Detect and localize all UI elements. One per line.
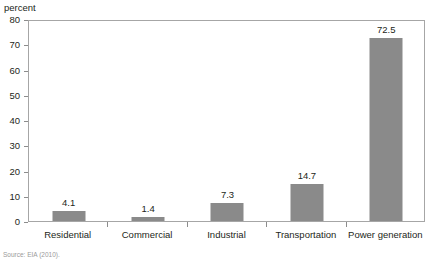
bar — [211, 203, 244, 221]
bar — [132, 217, 165, 221]
y-axis-tick-label: 80 — [9, 14, 20, 25]
y-axis-tick-mark — [24, 222, 28, 223]
x-axis-category-label: Power generation — [348, 229, 422, 241]
x-axis-category-label: Commercial — [122, 229, 173, 241]
bar — [52, 211, 85, 221]
x-axis-separator-tick — [346, 222, 347, 227]
y-axis-tick-mark — [24, 45, 28, 46]
bars-layer: 4.11.47.314.772.5 — [29, 21, 424, 221]
bar-chart-figure: percent 4.11.47.314.772.5 01020304050607… — [0, 0, 442, 260]
x-axis-separator-tick — [107, 222, 108, 227]
bar-group: 7.3 — [188, 21, 267, 221]
y-axis-tick-mark — [24, 146, 28, 147]
y-axis-tick-label: 10 — [9, 191, 20, 202]
bar-group: 72.5 — [347, 21, 426, 221]
y-axis-tick-label: 60 — [9, 65, 20, 76]
x-axis-category-label: Residential — [44, 229, 91, 241]
bar — [290, 184, 323, 221]
plot-area: 4.11.47.314.772.5 — [28, 20, 425, 222]
bar — [370, 38, 403, 221]
x-axis-category-label: Industrial — [207, 229, 246, 241]
y-axis-tick-label: 40 — [9, 115, 20, 126]
bar-value-label: 1.4 — [141, 203, 154, 214]
bar-value-label: 72.5 — [377, 24, 396, 35]
x-axis-separator-tick — [187, 222, 188, 227]
source-note: Source: EIA (2010). — [3, 251, 60, 259]
bar-value-label: 14.7 — [298, 170, 317, 181]
bar-value-label: 4.1 — [62, 197, 75, 208]
y-axis-tick-mark — [24, 172, 28, 173]
y-axis-tick-mark — [24, 20, 28, 21]
y-axis-tick-mark — [24, 121, 28, 122]
bar-group: 1.4 — [108, 21, 187, 221]
y-axis-tick-label: 0 — [15, 216, 20, 227]
bar-value-label: 7.3 — [221, 189, 234, 200]
bar-group: 14.7 — [267, 21, 346, 221]
y-axis-tick-mark — [24, 197, 28, 198]
x-axis-category-label: Transportation — [275, 229, 336, 241]
y-axis-tick-label: 50 — [9, 90, 20, 101]
x-axis-separator-tick — [266, 222, 267, 227]
bar-group: 4.1 — [29, 21, 108, 221]
y-axis-tick-label: 20 — [9, 166, 20, 177]
y-axis-tick-mark — [24, 96, 28, 97]
y-axis-tick-label: 70 — [9, 39, 20, 50]
y-axis-unit-label: percent — [4, 2, 36, 13]
y-axis-tick-label: 30 — [9, 140, 20, 151]
y-axis-tick-mark — [24, 71, 28, 72]
